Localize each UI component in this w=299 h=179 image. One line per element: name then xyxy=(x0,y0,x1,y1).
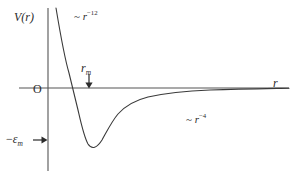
y-axis-label: V(r) xyxy=(14,11,34,23)
rm-label: rm xyxy=(81,62,91,74)
origin-label: O xyxy=(33,83,42,95)
epsilon-marker-arrow-icon xyxy=(33,137,48,144)
potential-energy-figure: V(r) r O rm −εm ~ r−12 ~ r−4 xyxy=(0,0,299,179)
well-depth-subscript-text: m xyxy=(18,139,23,148)
well-depth-label: −εm xyxy=(6,133,23,145)
repulsive-exponent-text: −12 xyxy=(87,9,98,16)
attractive-tilde-text: ~ xyxy=(186,113,195,125)
attractive-branch-annotation: ~ r−4 xyxy=(186,114,206,125)
x-axis-label: r xyxy=(273,77,278,89)
origin-label-text: O xyxy=(33,82,42,96)
repulsive-tilde-text: ~ xyxy=(74,10,83,22)
attractive-exponent-text: −4 xyxy=(199,112,206,119)
potential-curve xyxy=(56,8,289,147)
well-depth-minus-sign: − xyxy=(6,132,13,146)
y-axis-label-text: V(r) xyxy=(14,10,34,24)
rm-subscript-text: m xyxy=(86,68,91,77)
x-axis-label-text: r xyxy=(273,76,278,90)
repulsive-branch-annotation: ~ r−12 xyxy=(74,11,98,22)
plot-canvas xyxy=(0,0,299,179)
